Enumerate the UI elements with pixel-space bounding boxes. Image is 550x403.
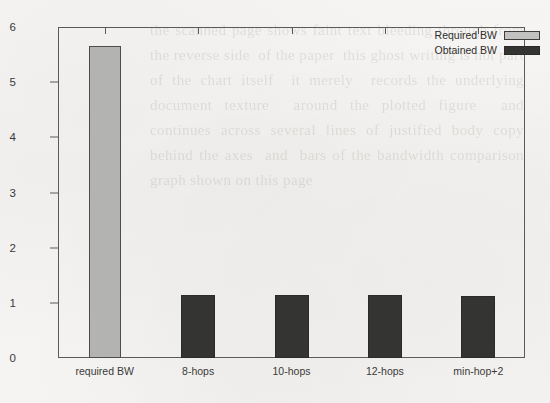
y-axis-tick-label: 3 [0, 187, 16, 199]
y-axis-tick-mark [50, 302, 58, 303]
legend-item: Obtained BW [435, 44, 540, 56]
x-axis-tick-label: min-hop+2 [453, 365, 503, 377]
bar-min-hop-2 [461, 296, 495, 358]
y-axis-tick-mark [50, 192, 58, 193]
x-axis-tick-mark-top [385, 27, 386, 34]
y-axis-tick-label: 4 [0, 131, 16, 143]
y-axis-tick-mark [50, 82, 58, 83]
bar-chart: 0123456required BW8-hops10-hops12-hopsmi… [0, 0, 550, 403]
legend-swatch-obtained [504, 46, 540, 55]
legend-swatch-required [504, 31, 540, 40]
bar-required-bw [89, 46, 121, 358]
x-axis-tick-label: required BW [76, 365, 134, 377]
legend-item: Required BW [435, 29, 540, 41]
y-axis-tick-mark [50, 137, 58, 138]
y-axis-tick-label: 1 [0, 297, 16, 309]
x-axis-tick-mark-top [292, 27, 293, 34]
y-axis-tick-label: 0 [0, 352, 16, 364]
legend-label: Required BW [435, 29, 497, 41]
x-axis-tick-mark-top [105, 27, 106, 34]
x-axis-tick-label: 12-hops [366, 365, 404, 377]
y-axis-tick-label: 6 [0, 21, 16, 33]
chart-legend: Required BWObtained BW [435, 29, 540, 56]
bar-10-hops [275, 295, 309, 358]
x-axis-tick-mark-top [198, 27, 199, 34]
bar-12-hops [368, 295, 402, 358]
y-axis-tick-label: 5 [0, 76, 16, 88]
x-axis-tick-label: 8-hops [182, 365, 214, 377]
x-axis-tick-label: 10-hops [273, 365, 311, 377]
legend-label: Obtained BW [435, 44, 497, 56]
y-axis-tick-mark [50, 247, 58, 248]
bar-8-hops [181, 295, 215, 358]
y-axis-tick-label: 2 [0, 242, 16, 254]
